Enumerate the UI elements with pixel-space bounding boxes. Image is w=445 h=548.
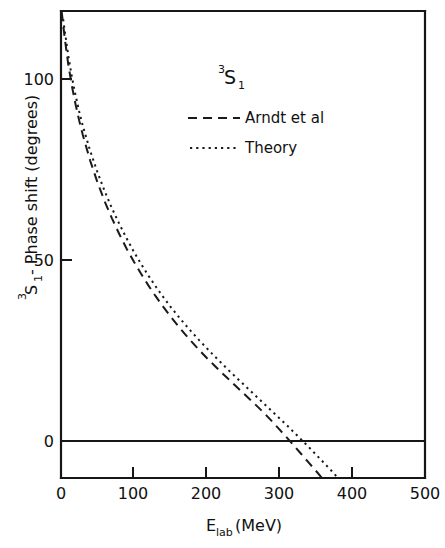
x-tick-labels: 0 100 200 300 400 500 xyxy=(56,484,440,503)
y-axis-title: 3 S 1 - Phase shift (degrees) xyxy=(16,95,45,300)
x-tick-label-500: 500 xyxy=(410,484,441,503)
x-axis-title: E lab (MeV) xyxy=(206,516,282,539)
x-axis-title-subscript: lab xyxy=(216,526,233,539)
phase-shift-chart: 100 50 0 0 100 200 300 400 500 3 S 1 Arn… xyxy=(0,0,445,548)
data-curves xyxy=(62,12,338,478)
y-tick-label-0: 0 xyxy=(44,432,54,451)
y-axis-ticks xyxy=(61,79,72,441)
curve-arndt-et-al xyxy=(62,12,322,478)
panel-title-base: S xyxy=(224,66,236,88)
y-axis-title-rest: - Phase shift (degrees) xyxy=(22,95,41,275)
x-tick-label-0: 0 xyxy=(56,484,66,503)
curve-theory xyxy=(63,19,338,478)
x-tick-label-400: 400 xyxy=(337,484,368,503)
x-tick-label-300: 300 xyxy=(264,484,295,503)
panel-title-subscript: 1 xyxy=(238,79,245,92)
y-tick-label-100: 100 xyxy=(23,70,54,89)
panel-title: 3 S 1 xyxy=(218,63,245,92)
legend-label-arndt-et-al: Arndt et al xyxy=(245,109,324,127)
y-axis-title-subscript: 1 xyxy=(32,275,45,282)
x-axis-ticks xyxy=(61,467,425,478)
x-axis-title-unit: (MeV) xyxy=(235,516,282,535)
x-tick-label-200: 200 xyxy=(191,484,222,503)
x-tick-label-100: 100 xyxy=(118,484,149,503)
y-axis-title-base: S xyxy=(22,285,41,295)
legend-label-theory: Theory xyxy=(244,139,297,157)
x-axis-title-base: E xyxy=(206,516,216,535)
legend: Arndt et al Theory xyxy=(188,109,324,157)
figure-container: 100 50 0 0 100 200 300 400 500 3 S 1 Arn… xyxy=(0,0,445,548)
